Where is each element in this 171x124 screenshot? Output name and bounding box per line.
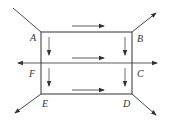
flow-arrows-vertical <box>49 37 125 86</box>
node-label-f: F <box>28 68 36 79</box>
node-label-a: A <box>29 32 37 43</box>
outgoing-arrow-b <box>132 13 156 32</box>
external-lines <box>13 8 156 115</box>
flow-arrows-horizontal <box>72 26 104 90</box>
outgoing-arrow-d <box>132 94 156 115</box>
node-label-b: B <box>137 33 143 44</box>
flow-network-diagram: A B C D E F <box>0 0 171 124</box>
node-label-c: C <box>137 68 144 79</box>
node-label-e: E <box>41 98 48 109</box>
node-label-d: D <box>122 98 131 109</box>
incoming-line-a <box>13 8 41 32</box>
outgoing-arrow-e <box>15 94 41 113</box>
